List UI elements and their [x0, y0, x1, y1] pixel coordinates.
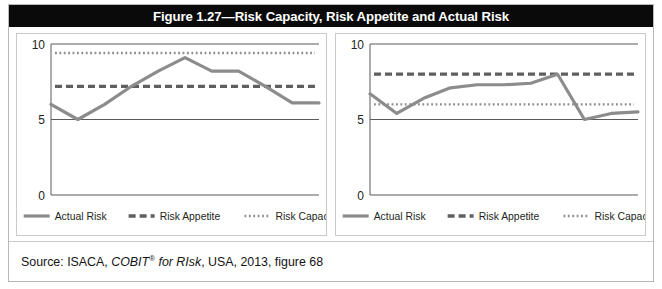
y-tick-label: 0 [38, 189, 45, 203]
source-suffix: , USA, 2013, figure 68 [201, 255, 323, 269]
right-chart-plot: 0510Actual RiskRisk AppetiteRisk Capacit… [336, 34, 645, 235]
source-bar: Source: ISACA, COBIT® for RIsk, USA, 201… [9, 241, 653, 281]
source-title-main: COBIT [111, 255, 149, 269]
legend-label: Risk Capacity [275, 211, 326, 222]
y-tick-label: 10 [351, 38, 365, 52]
source-caption: Source: ISACA, COBIT® for RIsk, USA, 201… [9, 254, 323, 269]
legend-label: Actual Risk [374, 211, 427, 222]
source-title-tail: for RIsk [155, 255, 201, 269]
figure-title-bar: Figure 1.27—Risk Capacity, Risk Appetite… [9, 5, 653, 27]
charts-row: 0510Actual RiskRisk AppetiteRisk Capacit… [9, 27, 653, 241]
y-tick-label: 10 [32, 38, 46, 52]
y-tick-label: 0 [357, 189, 364, 203]
legend-label: Actual Risk [55, 211, 108, 222]
chart-panel-left: 0510Actual RiskRisk AppetiteRisk Capacit… [16, 33, 327, 236]
legend-label: Risk Appetite [160, 211, 221, 222]
source-title: COBIT® for RIsk [111, 255, 201, 269]
legend-label: Risk Appetite [479, 211, 540, 222]
left-chart-plot: 0510Actual RiskRisk AppetiteRisk Capacit… [17, 34, 326, 235]
page-title: Figure 1.27—Risk Capacity, Risk Appetite… [153, 9, 509, 24]
figure-container: Figure 1.27—Risk Capacity, Risk Appetite… [8, 4, 654, 282]
source-prefix: Source: ISACA, [21, 255, 111, 269]
y-tick-label: 5 [38, 113, 45, 127]
y-tick-label: 5 [357, 113, 364, 127]
legend-label: Risk Capacity [594, 211, 645, 222]
series-line-solid [51, 58, 319, 120]
series-line-solid [370, 74, 638, 119]
chart-panel-right: 0510Actual RiskRisk AppetiteRisk Capacit… [335, 33, 646, 236]
